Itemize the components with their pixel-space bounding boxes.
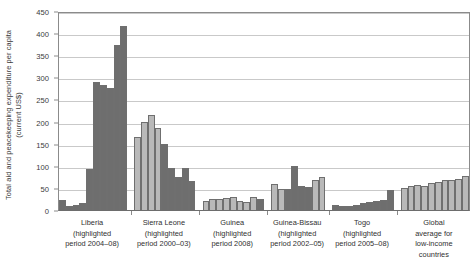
bar — [298, 186, 305, 210]
bar — [387, 190, 394, 210]
bar — [408, 186, 415, 210]
bar — [380, 200, 387, 210]
bar — [360, 203, 367, 210]
x-axis-group-label: Guinea-Bissau (highlighted period 2002–0… — [270, 216, 325, 268]
bar — [462, 176, 469, 210]
x-axis-group-label: Liberia (highlighted period 2004–08) — [58, 216, 126, 268]
x-axis-group-label: Sierra Leone (highlighted period 2000–03… — [133, 216, 194, 268]
bar — [339, 206, 346, 210]
y-axis-tick-label: 400 — [36, 30, 49, 39]
x-axis-tick — [267, 211, 268, 215]
bar — [120, 26, 127, 210]
bar — [401, 188, 408, 210]
bar — [182, 168, 189, 210]
y-axis-tick-label: 50 — [41, 184, 49, 193]
bar — [448, 180, 455, 210]
bar — [86, 169, 93, 210]
x-axis-labels: Liberia (highlighted period 2004–08)Sier… — [58, 216, 470, 268]
bar — [100, 85, 107, 210]
x-axis-tick — [397, 211, 398, 215]
bar — [332, 205, 339, 210]
bar — [435, 182, 442, 210]
bar — [216, 199, 223, 210]
y-axis-labels: 450400350300250200150100500 — [0, 0, 58, 215]
bar — [312, 180, 319, 210]
x-axis-tick — [131, 211, 132, 215]
bar — [291, 166, 298, 210]
y-axis-tick-label: 300 — [36, 74, 49, 83]
bar — [73, 205, 80, 210]
x-axis-tick — [199, 211, 200, 215]
bar — [93, 82, 100, 210]
bar — [59, 200, 66, 210]
bar — [366, 202, 373, 210]
bar-group — [271, 13, 326, 210]
bar — [66, 206, 73, 210]
bar-group — [203, 13, 264, 210]
x-axis-tick — [329, 211, 330, 215]
y-axis-tick-label: 100 — [36, 162, 49, 171]
bar — [305, 187, 312, 210]
bar-groups — [59, 13, 469, 210]
bar — [203, 201, 210, 210]
bar — [243, 202, 250, 210]
plot-area — [58, 12, 470, 211]
bar — [414, 185, 421, 210]
bar — [230, 197, 237, 210]
bar — [442, 180, 449, 210]
bar — [155, 128, 162, 210]
y-axis-tick-label: 200 — [36, 118, 49, 127]
x-axis-group-label: Guinea (highlighted period 2008) — [202, 216, 263, 268]
bar — [134, 137, 141, 210]
y-axis-tick-label: 0 — [45, 207, 49, 216]
bar — [421, 186, 428, 210]
bar-group — [134, 13, 195, 210]
bar — [223, 198, 230, 210]
bar — [168, 168, 175, 210]
x-axis-group-label: Global average for low-income countries — [400, 216, 468, 268]
chart-container: Total aid and peacekeeping expenditure p… — [0, 0, 476, 269]
bar-group — [59, 13, 127, 210]
bar — [346, 206, 353, 210]
bar — [148, 115, 155, 210]
bar — [428, 183, 435, 210]
bar — [161, 144, 168, 210]
bar — [237, 201, 244, 210]
bar — [271, 184, 278, 210]
y-axis-tick-label: 250 — [36, 96, 49, 105]
bar — [141, 122, 148, 210]
y-axis-tick-label: 450 — [36, 8, 49, 17]
bar — [107, 88, 114, 210]
bar — [373, 201, 380, 210]
bar — [278, 189, 285, 210]
bar — [257, 199, 264, 210]
y-axis-tick-label: 350 — [36, 52, 49, 61]
y-axis-tick-label: 150 — [36, 140, 49, 149]
bar — [455, 179, 462, 210]
bar-group — [332, 13, 393, 210]
bar — [209, 199, 216, 210]
bar — [285, 189, 292, 210]
bar — [114, 45, 121, 210]
bar-group — [401, 13, 469, 210]
bar — [319, 177, 326, 210]
bar — [79, 203, 86, 210]
x-axis-group-label: Togo (highlighted period 2005–08) — [331, 216, 392, 268]
bar — [189, 181, 196, 210]
bar — [175, 177, 182, 210]
bar — [250, 197, 257, 210]
bar — [353, 205, 360, 210]
